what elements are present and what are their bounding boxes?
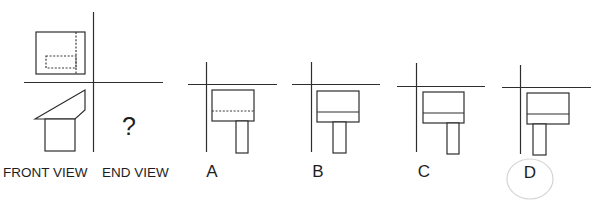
option-a-label[interactable]: A xyxy=(206,162,218,181)
orthographic-projection-question: ? FRONT VIEW END VIEW A B C D xyxy=(0,0,600,201)
front-view-sloped-top xyxy=(35,90,85,119)
option-b-stem xyxy=(333,122,346,153)
option-c-upper-block xyxy=(423,92,464,123)
option-c-label[interactable]: C xyxy=(418,162,430,181)
option-b[interactable]: B xyxy=(292,62,380,181)
option-a[interactable]: A xyxy=(188,62,277,181)
option-a-stem xyxy=(236,121,248,153)
option-c-stem xyxy=(447,123,459,154)
top-view-outline xyxy=(36,32,85,74)
option-b-upper-block xyxy=(317,91,359,122)
option-a-upper-block xyxy=(212,90,254,121)
option-b-label[interactable]: B xyxy=(312,162,323,181)
top-view xyxy=(36,32,85,74)
option-d-upper-block xyxy=(527,93,569,124)
option-c[interactable]: C xyxy=(397,63,485,181)
front-view-base-block xyxy=(45,119,75,151)
option-d-stem xyxy=(533,124,546,155)
option-d[interactable]: D xyxy=(502,65,591,199)
front-view xyxy=(35,90,85,151)
end-view-label: END VIEW xyxy=(102,165,169,180)
option-d-label[interactable]: D xyxy=(524,163,536,182)
end-view-question-mark: ? xyxy=(122,112,136,140)
question-figure: ? FRONT VIEW END VIEW xyxy=(3,12,169,180)
front-view-label: FRONT VIEW xyxy=(3,165,88,180)
